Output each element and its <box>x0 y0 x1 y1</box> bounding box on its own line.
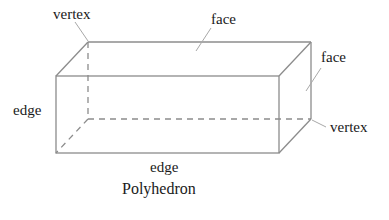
front-face <box>56 76 279 153</box>
label-face-right: face <box>321 49 346 65</box>
label-vertex-top: vertex <box>53 6 91 22</box>
edge-top-right-depth <box>279 42 311 76</box>
label-face-top: face <box>211 11 236 27</box>
visible-edges <box>56 42 311 153</box>
label-edge-left: edge <box>13 102 42 118</box>
edge-bottom-right-depth <box>279 119 311 153</box>
leader-vertex-top <box>75 22 88 41</box>
label-vertex-right: vertex <box>330 119 368 135</box>
leader-face-top <box>196 28 211 51</box>
polyhedron-diagram: vertex face face edge vertex edge Polyhe… <box>0 0 389 220</box>
hidden-edges <box>56 42 311 153</box>
diagram-title: Polyhedron <box>122 180 196 198</box>
hidden-edge-bottom-left-depth <box>56 119 88 153</box>
label-edge-bottom: edge <box>150 159 179 175</box>
leader-vertex-right <box>312 120 326 127</box>
leader-face-right <box>306 68 321 91</box>
edge-top-left-depth <box>56 42 88 76</box>
leader-lines <box>75 22 326 127</box>
